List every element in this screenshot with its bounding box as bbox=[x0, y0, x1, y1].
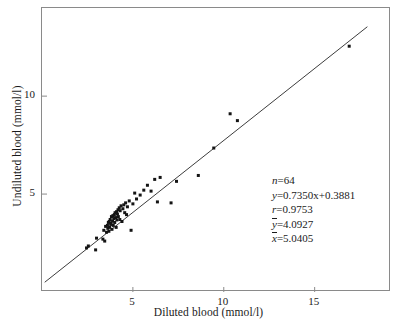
data-point bbox=[112, 224, 115, 227]
data-point bbox=[229, 112, 232, 115]
data-point bbox=[87, 244, 90, 247]
data-point bbox=[348, 45, 351, 48]
plot-area-frame bbox=[41, 7, 390, 291]
data-point bbox=[119, 209, 122, 212]
data-point bbox=[107, 230, 110, 233]
data-point bbox=[130, 229, 133, 232]
data-point bbox=[115, 226, 118, 229]
y-axis-label: Undiluted blood (mmol/l) bbox=[11, 56, 23, 236]
annotation-value: =0.9753 bbox=[276, 203, 312, 215]
data-point bbox=[175, 180, 178, 183]
plot-canvas bbox=[42, 8, 391, 292]
data-point bbox=[120, 220, 123, 223]
data-point bbox=[156, 200, 159, 203]
data-point bbox=[142, 189, 145, 192]
data-point bbox=[102, 229, 105, 232]
data-point bbox=[170, 201, 173, 204]
annotation-value: =0.7350x+0.3881 bbox=[277, 189, 355, 201]
data-point bbox=[133, 192, 136, 195]
data-point bbox=[110, 228, 113, 231]
data-point bbox=[236, 119, 239, 122]
annotation-regression: y=0.7350x+0.3881 bbox=[272, 188, 355, 203]
data-point bbox=[120, 204, 123, 207]
data-point bbox=[212, 147, 215, 150]
data-point bbox=[125, 213, 128, 216]
data-point bbox=[117, 215, 120, 218]
statistics-annotation-block: n=64y=0.7350x+0.3881r=0.9753y=4.0927x=5.… bbox=[272, 173, 355, 246]
annotation-ybar: y=4.0927 bbox=[272, 217, 355, 232]
data-point bbox=[135, 197, 138, 200]
data-point bbox=[94, 248, 97, 251]
data-point bbox=[146, 184, 149, 187]
data-point bbox=[197, 174, 200, 177]
data-point bbox=[159, 176, 162, 179]
annotation-r: r=0.9753 bbox=[272, 202, 355, 217]
data-point bbox=[103, 240, 106, 243]
data-point bbox=[153, 178, 156, 181]
annotation-value: =5.0405 bbox=[277, 232, 313, 244]
data-point bbox=[139, 194, 142, 197]
data-point bbox=[131, 202, 134, 205]
annotation-xbar: x=5.0405 bbox=[272, 231, 355, 246]
data-point bbox=[124, 201, 127, 204]
annotation-value: =4.0927 bbox=[277, 218, 313, 230]
data-point bbox=[121, 207, 124, 210]
data-point bbox=[128, 199, 131, 202]
data-point bbox=[150, 190, 153, 193]
data-point bbox=[126, 205, 129, 208]
x-axis-label: Diluted blood (mmol/l) bbox=[0, 306, 417, 318]
data-point bbox=[115, 218, 118, 221]
data-point bbox=[95, 237, 98, 240]
scatter-plot-figure: 51015510 Diluted blood (mmol/l) Undilute… bbox=[0, 0, 417, 331]
annotation-value: =64 bbox=[278, 174, 295, 186]
annotation-n: n=64 bbox=[272, 173, 355, 188]
